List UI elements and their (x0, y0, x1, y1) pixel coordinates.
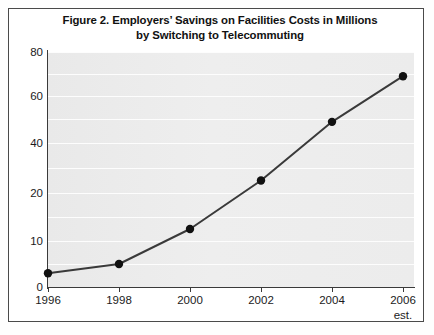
gridline (48, 96, 414, 97)
y-tick-label: 10 (3, 235, 43, 247)
x-tick-label: 2002 (226, 294, 296, 306)
x-tick-mark (119, 288, 120, 292)
gridline (48, 74, 414, 75)
y-tick-label: 60 (3, 90, 43, 102)
y-tick-label: 80 (3, 46, 43, 58)
y-axis-tick-labels: 01020406080 (0, 0, 43, 335)
x-tick-label: 1996 (13, 294, 83, 306)
x-tick-mark (261, 288, 262, 292)
x-axis-line (47, 287, 415, 288)
gridline (48, 168, 414, 169)
figure-container: Figure 2. Employers’ Savings on Faciliti… (0, 0, 434, 335)
y-tick-label: 0 (3, 281, 43, 293)
gridline (48, 143, 414, 144)
x-tick-mark (403, 288, 404, 292)
gridline (48, 264, 414, 265)
gridline (48, 119, 414, 120)
x-tick-label: 2004 (297, 294, 367, 306)
y-axis-line (47, 50, 48, 289)
y-tick-label: 40 (3, 137, 43, 149)
gridline (48, 193, 414, 194)
chart-title-line-1: Figure 2. Employers’ Savings on Faciliti… (30, 13, 410, 28)
x-tick-label: 1998 (84, 294, 154, 306)
gridline (48, 52, 414, 53)
chart-title-line-2: by Switching to Telecommuting (30, 28, 410, 43)
x-tick-label: 2006 (368, 294, 434, 306)
x-tick-mark (48, 288, 49, 292)
gridline (48, 217, 414, 218)
x-tick-mark (332, 288, 333, 292)
x-tick-mark (190, 288, 191, 292)
plot-area (48, 52, 414, 287)
chart-title: Figure 2. Employers’ Savings on Faciliti… (30, 13, 410, 42)
y-tick-label: 20 (3, 187, 43, 199)
x-tick-label: 2000 (155, 294, 225, 306)
x-tick-sublabel: est. (368, 309, 434, 321)
gridline (48, 241, 414, 242)
